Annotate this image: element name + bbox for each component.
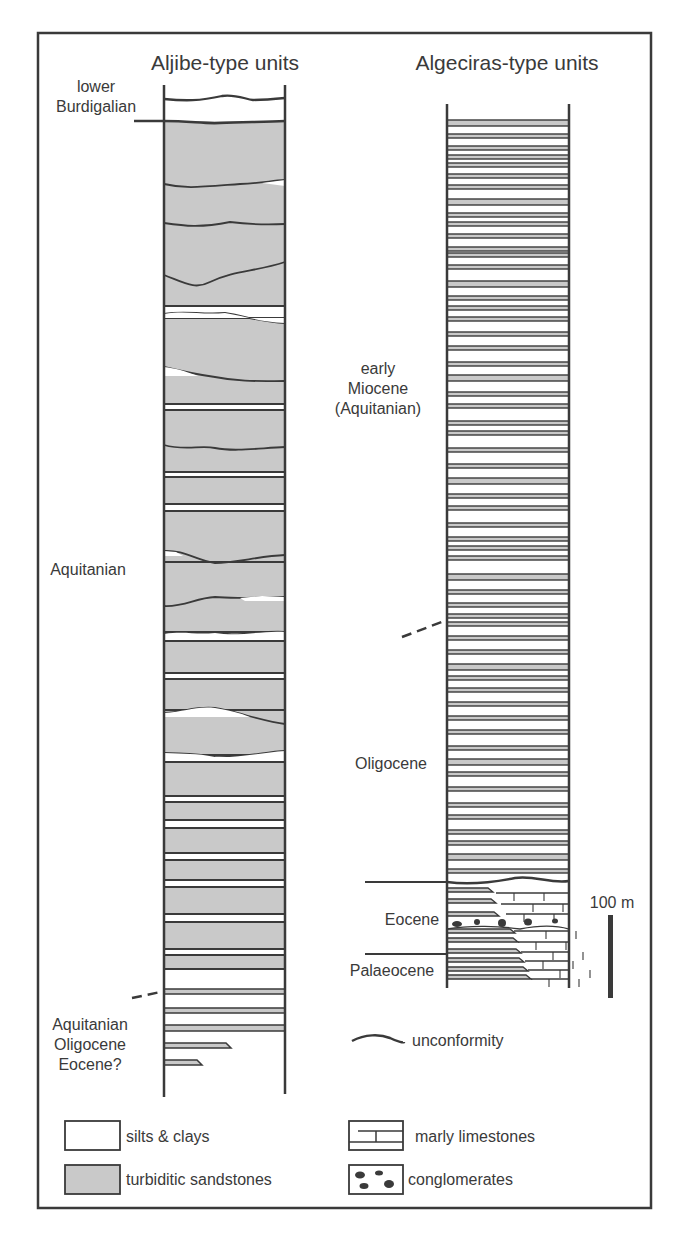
pinchout-sandstone-bed <box>164 1043 231 1048</box>
thin-sandstone-bed <box>447 854 569 860</box>
thin-sandstone-bed <box>447 375 569 381</box>
figure-frame <box>38 33 651 1208</box>
thin-sandstone-bed <box>447 346 569 350</box>
stratigraphic-columns-figure: Aljibe-type units Algeciras-type units l… <box>0 0 684 1238</box>
thin-sandstone-bed <box>447 404 569 408</box>
thin-sandstone-bed <box>447 306 569 310</box>
silt-bed <box>164 914 285 922</box>
sandstone-body <box>164 121 285 969</box>
aljibe-column <box>164 85 285 1097</box>
turbidite-wedge <box>447 975 531 979</box>
turbidite-wedge <box>447 967 528 971</box>
algeciras-title: Algeciras-type units <box>415 51 598 74</box>
thin-sandstone-bed <box>447 664 569 670</box>
legend-swatch-silts <box>65 1121 120 1150</box>
thin-sandstone-bed <box>164 1008 285 1013</box>
thin-sandstone-bed <box>447 636 569 640</box>
thin-sandstone-bed <box>447 296 569 300</box>
silt-bed <box>164 504 285 511</box>
age-label-eocene-query: Eocene? <box>58 1056 121 1073</box>
legend-label-silts: silts & clays <box>126 1128 210 1145</box>
age-label-miocene: Miocene <box>348 380 409 397</box>
pinchout-sandstone-bed <box>164 1060 202 1065</box>
thin-sandstone-bed <box>447 155 569 159</box>
legend-swatch-congl <box>349 1165 403 1194</box>
thin-sandstone-bed <box>447 772 569 776</box>
thin-sandstone-bed <box>447 431 569 435</box>
thin-sandstone-bed <box>447 702 569 706</box>
thin-sandstone-bed <box>447 716 569 720</box>
thin-sandstone-bed <box>447 464 569 468</box>
age-label-aquitanian: Aquitanian <box>50 561 126 578</box>
thin-sandstone-bed <box>447 841 569 845</box>
thin-sandstone-bed <box>447 265 569 269</box>
thin-sandstone-bed <box>447 392 569 396</box>
silt-bed <box>164 820 285 828</box>
thin-sandstone-bed <box>447 622 569 626</box>
unconformity-label: unconformity <box>412 1032 504 1049</box>
turbidite-wedge <box>447 929 515 933</box>
thin-sandstone-bed <box>447 688 569 692</box>
thin-sandstone-bed <box>447 556 569 560</box>
thin-sandstone-bed <box>447 787 569 791</box>
thin-sandstone-bed <box>447 362 569 366</box>
thin-sandstone-bed <box>447 546 569 550</box>
age-label-eocene: Eocene <box>385 911 439 928</box>
age-label-aquitanian-paren: (Aquitanian) <box>335 400 421 417</box>
age-label-oligocene: Oligocene <box>355 755 427 772</box>
thin-sandstone-bed <box>447 494 569 498</box>
scale-bar-label: 100 m <box>590 894 634 911</box>
thin-sandstone-bed <box>447 448 569 452</box>
thin-sandstone-bed <box>447 185 569 189</box>
thin-sandstone-bed <box>447 830 569 834</box>
thin-sandstone-bed <box>447 421 569 425</box>
age-label-oligocene-lower: Oligocene <box>54 1036 126 1053</box>
legend-swatch-marly <box>349 1121 403 1150</box>
thin-sandstone-bed <box>447 234 569 238</box>
thin-sandstone-bed <box>447 199 569 205</box>
scale-bar <box>608 915 613 998</box>
legend-swatch-sand <box>65 1165 120 1194</box>
thin-sandstone-bed <box>447 332 569 336</box>
legend-label-marly: marly limestones <box>415 1128 535 1145</box>
thin-sandstone-bed <box>447 869 569 873</box>
thin-sandstone-bed <box>447 730 569 734</box>
thin-sandstone-bed <box>447 650 569 654</box>
algeciras-column <box>447 104 590 988</box>
age-label-palaeocene: Palaeocene <box>350 962 435 979</box>
turbidite-wedge <box>447 888 493 892</box>
turbidite-wedge <box>447 958 524 962</box>
thin-sandstone-bed <box>447 478 569 484</box>
thin-sandstone-bed <box>447 146 569 150</box>
thin-sandstone-bed <box>447 281 569 287</box>
conglomerate-clast <box>452 921 462 927</box>
thin-sandstone-bed <box>447 537 569 541</box>
age-label-early: early <box>361 360 396 377</box>
thin-sandstone-bed <box>447 120 569 126</box>
legend-label-sand: turbiditic sandstones <box>126 1171 272 1188</box>
conglomerate-clast <box>474 919 480 925</box>
thin-sandstone-bed <box>447 759 569 765</box>
thin-sandstone-bed <box>447 676 569 680</box>
thin-sandstone-bed <box>447 803 569 807</box>
legend-label-congl: conglomerates <box>408 1171 513 1188</box>
thin-sandstone-bed <box>447 614 569 618</box>
silt-top-unit <box>164 99 285 121</box>
thin-sandstone-bed <box>447 174 569 178</box>
thin-sandstone-bed <box>447 163 569 167</box>
thin-sandstone-bed <box>447 317 569 321</box>
thin-sandstone-bed <box>447 523 569 527</box>
turbidite-wedge <box>447 938 518 942</box>
silt-bed <box>164 880 285 887</box>
thin-sandstone-bed <box>447 603 569 607</box>
thin-sandstone-bed <box>447 815 569 819</box>
turbidite-wedge <box>447 899 496 903</box>
thin-sandstone-bed <box>447 222 569 226</box>
silt-bed <box>164 853 285 860</box>
conglomerate-clast <box>524 919 532 926</box>
thin-sandstone-bed <box>447 506 569 510</box>
conglomerate-clast <box>552 919 558 924</box>
age-label-aquitanian-lower: Aquitanian <box>52 1016 128 1033</box>
thin-sandstone-bed <box>447 213 569 217</box>
age-label-burdigalian: Burdigalian <box>56 98 136 115</box>
